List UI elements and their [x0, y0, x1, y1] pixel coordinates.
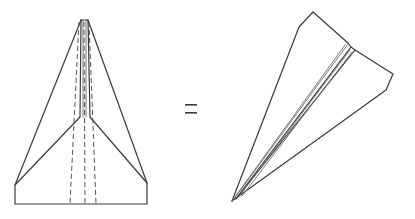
body-fold-1 — [238, 43, 351, 196]
body-fold-5 — [242, 52, 352, 196]
airplane-top-view: Paper airplane top view (unfolded wings,… — [15, 20, 147, 204]
body-fold-4 — [240, 50, 350, 195]
dashed-fold-left — [70, 22, 79, 204]
left-wing-edge — [232, 12, 348, 201]
body-fold-3 — [234, 44, 348, 199]
dashed-fold-center — [84, 22, 85, 204]
right-wing-edge — [232, 50, 393, 201]
diagram-title: Paper airplane: top view equals folded p… — [0, 0, 1, 1]
equals-sign: = — [185, 104, 197, 114]
diagram-canvas: Paper airplane: top view equals folded p… — [0, 0, 415, 219]
diagram-svg: Paper airplane top view (unfolded wings,… — [0, 0, 415, 219]
left-wing-crease — [232, 45, 345, 201]
airplane-perspective-view: Folded paper airplane in perspective — [232, 12, 393, 201]
